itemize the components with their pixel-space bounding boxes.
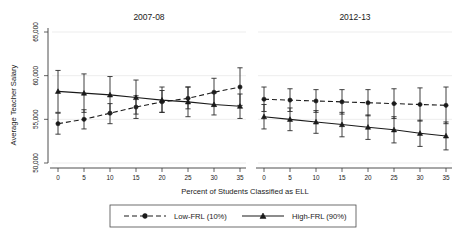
x-tick-label: 15 (338, 174, 346, 181)
x-tick-label: 0 (56, 174, 60, 181)
legend-label: Low-FRL (10%) (174, 212, 227, 221)
x-tick-label: 30 (416, 174, 424, 181)
data-point-circle (340, 100, 344, 104)
x-tick-label: 15 (132, 174, 140, 181)
x-tick-label: 25 (390, 174, 398, 181)
x-tick-label: 5 (288, 174, 292, 181)
x-tick-label: 5 (82, 174, 86, 181)
x-tick-label: 20 (364, 174, 372, 181)
x-tick-label: 0 (262, 174, 266, 181)
x-axis-title: Percent of Students Classified as ELL (181, 187, 308, 196)
data-point-circle (314, 99, 318, 103)
data-point-circle (82, 117, 86, 121)
x-tick-label: 10 (312, 174, 320, 181)
data-point-circle (238, 85, 242, 89)
data-point-circle (262, 97, 266, 101)
chart-figure: 50,00055,00060,00065,000 005510101515202… (0, 0, 463, 240)
panel-title: 2012-13 (339, 12, 370, 22)
y-tick-label: 60,000 (32, 65, 39, 85)
y-tick-label: 50,000 (32, 153, 39, 173)
x-tick-label: 30 (210, 174, 218, 181)
panel-title: 2007-08 (133, 12, 164, 22)
x-tick-label: 20 (158, 174, 166, 181)
x-tick-label: 10 (106, 174, 114, 181)
data-point-circle (143, 214, 148, 219)
y-tick-label: 65,000 (32, 22, 39, 42)
y-tick-label: 55,000 (32, 109, 39, 129)
x-tick-label: 35 (236, 174, 244, 181)
legend-label: High-FRL (90%) (292, 212, 347, 221)
x-tick-label: 25 (184, 174, 192, 181)
data-point-circle (418, 102, 422, 106)
x-tick-label: 35 (442, 174, 450, 181)
data-point-circle (444, 103, 448, 107)
y-axis-title: Average Teacher Salary (9, 64, 18, 145)
data-point-circle (56, 122, 60, 126)
data-point-circle (366, 101, 370, 105)
data-point-circle (288, 98, 292, 102)
data-point-circle (392, 102, 396, 106)
